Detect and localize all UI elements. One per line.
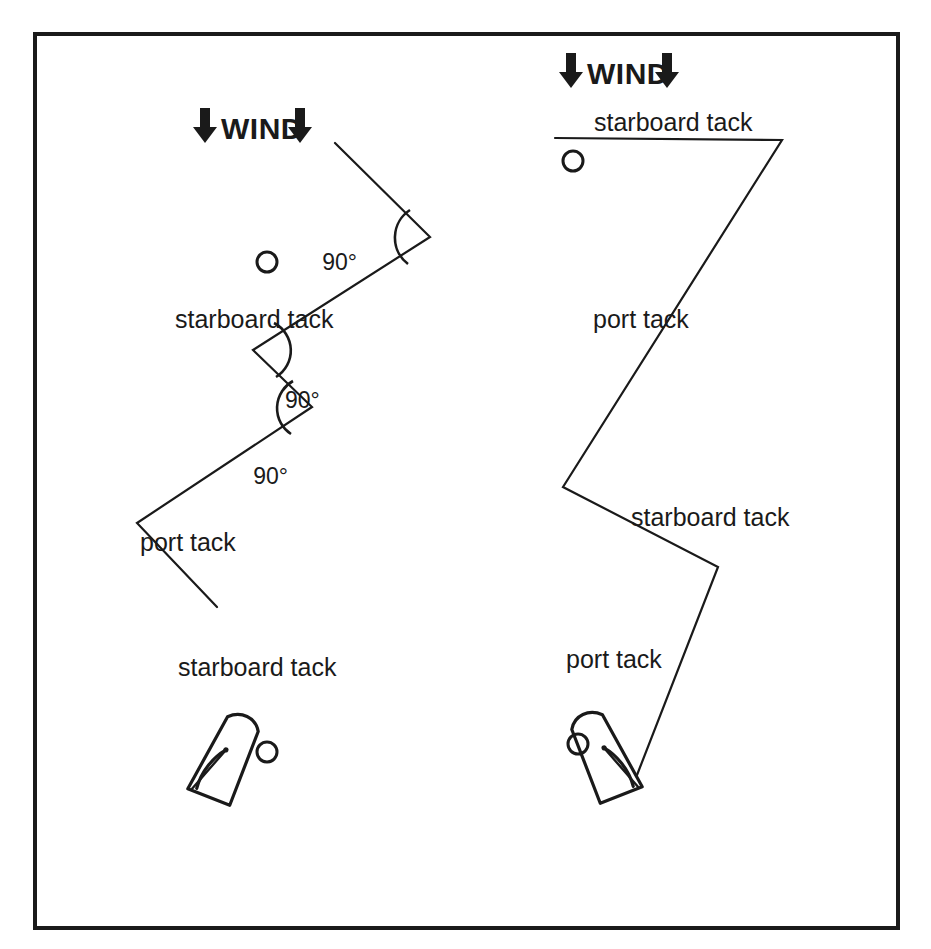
start-mark-left bbox=[257, 742, 277, 762]
angle-arc-left-1 bbox=[395, 210, 410, 264]
wind-label-left: WIND bbox=[193, 108, 312, 145]
sailing-tacking-diagram: WIND 90° 90° 90° starboard tack port tac… bbox=[0, 0, 931, 949]
tack-label-right-starboard-lower: starboard tack bbox=[631, 503, 790, 531]
right-beat-diagram: WIND starboard tack port tack starboard … bbox=[555, 53, 790, 805]
tack-label-left-port: port tack bbox=[140, 528, 236, 556]
figure-canvas: WIND 90° 90° 90° starboard tack port tac… bbox=[0, 0, 931, 949]
tack-label-right-port-lower: port tack bbox=[566, 645, 662, 673]
sailboat-left bbox=[188, 706, 266, 807]
wind-arrow-left-icon bbox=[193, 108, 217, 143]
wind-arrow-left-icon bbox=[559, 53, 583, 88]
left-beat-diagram: WIND 90° 90° 90° starboard tack port tac… bbox=[137, 108, 430, 807]
windward-mark-left bbox=[257, 252, 277, 272]
angle-label-left-2: 90° bbox=[285, 387, 320, 413]
tack-label-right-starboard-top: starboard tack bbox=[594, 108, 753, 136]
figure-border bbox=[35, 34, 898, 928]
angle-label-left-1: 90° bbox=[322, 249, 357, 275]
tack-label-right-port-upper: port tack bbox=[593, 305, 689, 333]
wind-label-right: WIND bbox=[559, 53, 679, 90]
tack-label-left-starboard-upper: starboard tack bbox=[175, 305, 334, 333]
windward-mark-right bbox=[563, 151, 583, 171]
tack-label-left-starboard-lower: starboard tack bbox=[178, 653, 337, 681]
angle-label-left-3: 90° bbox=[253, 463, 288, 489]
right-course-path bbox=[555, 138, 782, 775]
